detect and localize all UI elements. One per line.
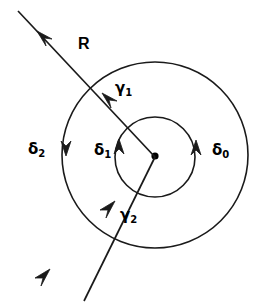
label-delta-2: δ2 bbox=[28, 142, 45, 157]
label-R-text: R bbox=[78, 35, 90, 52]
label-gamma-1-text: γ bbox=[115, 79, 125, 97]
label-R: R bbox=[78, 36, 90, 52]
label-delta-0-sub: 0 bbox=[222, 149, 229, 160]
gamma-2-arrowhead bbox=[100, 201, 115, 218]
label-delta-0-text: δ bbox=[212, 141, 222, 159]
label-delta-1: δ1 bbox=[94, 143, 111, 158]
label-delta-0: δ0 bbox=[212, 143, 229, 158]
label-gamma-2-sub: 2 bbox=[130, 214, 137, 225]
label-delta-1-text: δ bbox=[94, 141, 104, 159]
label-gamma-1: γ1 bbox=[115, 81, 132, 96]
figure-canvas: R γ1 γ2 δ0 δ1 δ2 bbox=[0, 0, 272, 308]
label-gamma-2: γ2 bbox=[120, 208, 137, 223]
label-gamma-2-text: γ bbox=[120, 206, 130, 224]
label-delta-2-text: δ bbox=[28, 140, 38, 158]
label-delta-2-sub: 2 bbox=[38, 148, 45, 159]
ray-segment-lower bbox=[84, 157, 155, 301]
lower-ray-arrowhead bbox=[35, 269, 50, 286]
label-delta-1-sub: 1 bbox=[104, 149, 111, 160]
label-gamma-1-sub: 1 bbox=[125, 87, 132, 98]
delta-1-arrowhead bbox=[114, 139, 124, 154]
